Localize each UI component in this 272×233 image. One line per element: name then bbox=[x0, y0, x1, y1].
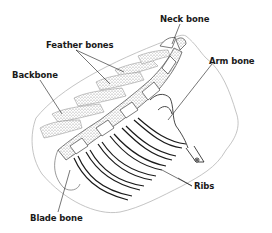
diagram-illustration bbox=[0, 0, 272, 233]
label-arm-bone: Arm bone bbox=[209, 56, 255, 66]
arm-bone-group bbox=[150, 94, 204, 162]
label-ribs: Ribs bbox=[194, 181, 214, 191]
bone-diagram: Neck bone Feather bones Backbone Arm bon… bbox=[0, 0, 272, 233]
label-feather-bones: Feather bones bbox=[46, 40, 114, 50]
label-backbone: Backbone bbox=[12, 70, 58, 80]
label-blade-bone: Blade bone bbox=[30, 213, 83, 223]
label-neck-bone: Neck bone bbox=[160, 14, 209, 24]
